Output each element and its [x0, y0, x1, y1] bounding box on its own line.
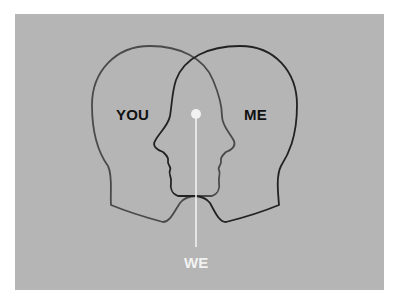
we-label: WE — [184, 255, 209, 270]
we-pointer-dot — [191, 109, 201, 119]
me-label: ME — [244, 107, 267, 122]
you-label: YOU — [116, 107, 149, 122]
left-head-outline — [92, 46, 235, 222]
right-head-outline — [154, 46, 297, 222]
